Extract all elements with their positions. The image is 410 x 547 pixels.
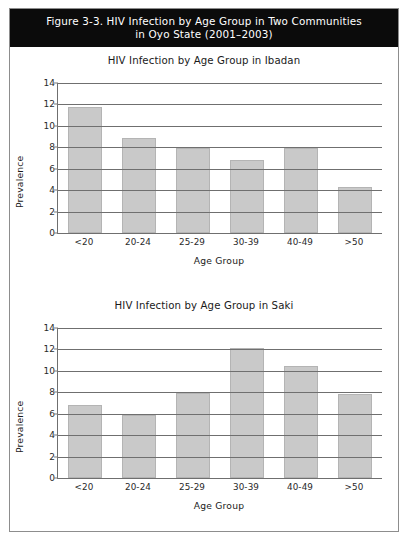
x-axis-tick-label: >50 [327,237,381,247]
chart-saki-ylabel: Prevalence [12,372,26,482]
x-axis-tick-label: >50 [327,482,381,492]
y-axis-tick-mark [54,104,58,105]
gridline [58,349,382,350]
gridline [58,190,382,191]
chart-saki-bars [58,328,382,478]
gridline [58,147,382,148]
gridline [58,126,382,127]
chart-ibadan-bars [58,83,382,233]
bar-40-49[interactable] [284,366,319,479]
y-axis-tick-mark [54,478,58,479]
gridline [58,83,382,84]
bar-slot [328,328,382,478]
chart-ibadan-xticks: <2020-2425-2930-3940-49>50 [57,237,381,247]
y-axis-tick-mark [54,147,58,148]
bar-slot [274,328,328,478]
bar-30-39[interactable] [230,160,265,233]
bar-slot [112,328,166,478]
figure-caption: Figure 3-3. HIV Infection by Age Group i… [10,9,398,47]
bar-slot [274,83,328,233]
x-axis-tick-label: 30-39 [219,237,273,247]
bar-slot [328,83,382,233]
gridline [58,392,382,393]
figure-caption-text: Figure 3-3. HIV Infection by Age Group i… [46,15,362,41]
bar-slot [220,328,274,478]
y-axis-tick-mark [54,83,58,84]
bar-<20[interactable] [68,405,103,478]
x-axis-tick-label: 25-29 [165,237,219,247]
bar-20-24[interactable] [122,415,157,478]
gridline [58,104,382,105]
bar-slot [58,328,112,478]
chart-ibadan-plot: Prevalence 02468101214 <2020-2425-2930-3… [10,77,398,283]
figure-page: Figure 3-3. HIV Infection by Age Group i… [0,0,410,547]
chart-saki-xticks: <2020-2425-2930-3940-49>50 [57,482,381,492]
bar->50[interactable] [338,187,373,233]
x-axis-tick-label: 25-29 [165,482,219,492]
y-axis-tick-mark [54,211,58,212]
gridline [58,414,382,415]
y-axis-tick-mark [54,456,58,457]
chart-saki-plot-area: 02468101214 [57,328,382,479]
gridline [58,212,382,213]
chart-ibadan-ylabel: Prevalence [12,127,26,237]
x-axis-tick-label: 30-39 [219,482,273,492]
y-axis-tick-mark [54,435,58,436]
chart-ibadan: HIV Infection by Age Group in Ibadan Pre… [10,55,398,283]
gridline [58,457,382,458]
gridline [58,328,382,329]
y-axis-tick-mark [54,413,58,414]
bar-20-24[interactable] [122,138,157,233]
x-axis-tick-label: 20-24 [111,482,165,492]
gridline [58,371,382,372]
bar-slot [58,83,112,233]
chart-ibadan-title: HIV Infection by Age Group in Ibadan [10,55,398,66]
y-axis-tick-mark [54,125,58,126]
y-axis-tick-mark [54,190,58,191]
chart-saki: HIV Infection by Age Group in Saki Preva… [10,300,398,528]
x-axis-tick-label: 20-24 [111,237,165,247]
x-axis-tick-label: 40-49 [273,482,327,492]
y-axis-tick-mark [54,349,58,350]
bar-slot [166,83,220,233]
y-axis-tick-mark [54,168,58,169]
bar-slot [166,328,220,478]
y-axis-tick-mark [54,370,58,371]
x-axis-tick-label: <20 [57,237,111,247]
x-axis-tick-label: 40-49 [273,237,327,247]
x-axis-tick-label: <20 [57,482,111,492]
chart-ibadan-xlabel: Age Group [57,255,381,266]
y-axis-tick-mark [54,233,58,234]
chart-saki-title: HIV Infection by Age Group in Saki [10,300,398,311]
bar->50[interactable] [338,394,373,478]
chart-saki-plot: Prevalence 02468101214 <2020-2425-2930-3… [10,322,398,528]
chart-saki-xlabel: Age Group [57,500,381,511]
y-axis-tick-mark [54,392,58,393]
bar-slot [220,83,274,233]
gridline [58,435,382,436]
y-axis-tick-mark [54,328,58,329]
chart-ibadan-plot-area: 02468101214 [57,83,382,234]
gridline [58,169,382,170]
bar-slot [112,83,166,233]
